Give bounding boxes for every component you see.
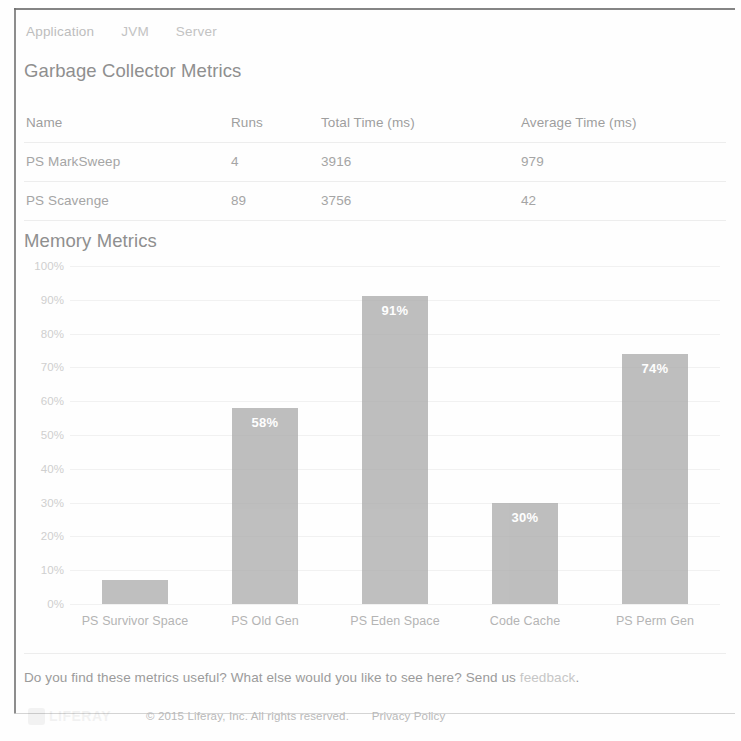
- chart-plot-area: 58%91%30%74%: [70, 266, 720, 604]
- bar-value-label: 91%: [362, 303, 428, 318]
- bar-slot: 74%: [593, 266, 717, 604]
- y-axis-tick-label: 30%: [24, 497, 64, 509]
- table-row: PS Scavenge 89 3756 42: [24, 182, 726, 221]
- table-row: PS MarkSweep 4 3916 979: [24, 143, 726, 182]
- y-axis-tick-label: 10%: [24, 564, 64, 576]
- y-axis-tick-label: 90%: [24, 294, 64, 306]
- x-axis-tick-label: PS Perm Gen: [590, 614, 720, 628]
- privacy-policy-link[interactable]: Privacy Policy: [372, 710, 446, 722]
- chart-bar[interactable]: 91%: [362, 296, 428, 604]
- y-axis-tick-label: 50%: [24, 429, 64, 441]
- table-header-row: Name Runs Total Time (ms) Average Time (…: [24, 104, 726, 143]
- page-border-left: [14, 8, 16, 714]
- cell-name: PS Scavenge: [24, 182, 231, 221]
- chart-bar[interactable]: [102, 580, 168, 604]
- x-axis-tick-label: PS Eden Space: [330, 614, 460, 628]
- y-axis-tick-label: 40%: [24, 463, 64, 475]
- bar-slot: 58%: [203, 266, 327, 604]
- cell-name: PS MarkSweep: [24, 143, 231, 182]
- tab-jvm[interactable]: JVM: [121, 24, 149, 39]
- copyright-text: © 2015 Liferay, Inc. All rights reserved…: [146, 710, 349, 722]
- y-axis-tick-label: 20%: [24, 530, 64, 542]
- y-axis-tick-label: 100%: [24, 260, 64, 272]
- bar-slot: [73, 266, 197, 604]
- cell-average-time: 42: [521, 182, 726, 221]
- chart-bar[interactable]: 30%: [492, 503, 558, 604]
- x-axis-tick-label: PS Old Gen: [200, 614, 330, 628]
- bar-value-label: 58%: [232, 415, 298, 430]
- chart-bars: 58%91%30%74%: [70, 266, 720, 604]
- column-header-runs: Runs: [231, 104, 321, 143]
- tab-application[interactable]: Application: [26, 24, 94, 39]
- bar-value-label: 30%: [492, 510, 558, 525]
- logo-mark: [28, 708, 45, 725]
- x-axis-tick-label: Code Cache: [460, 614, 590, 628]
- nav-tabs: Application JVM Server: [26, 24, 217, 39]
- chart-bar[interactable]: 58%: [232, 408, 298, 604]
- x-axis-tick-label: PS Survivor Space: [70, 614, 200, 628]
- y-axis-tick-label: 0%: [24, 598, 64, 610]
- memory-metrics-title: Memory Metrics: [24, 230, 157, 252]
- bar-value-label: 74%: [622, 361, 688, 376]
- bar-slot: 30%: [463, 266, 587, 604]
- cell-average-time: 979: [521, 143, 726, 182]
- tab-server[interactable]: Server: [176, 24, 217, 39]
- feedback-text: Do you find these metrics useful? What e…: [24, 670, 520, 685]
- column-header-total-time: Total Time (ms): [321, 104, 521, 143]
- y-axis-tick-label: 60%: [24, 395, 64, 407]
- cell-runs: 4: [231, 143, 321, 182]
- feedback-prompt: Do you find these metrics useful? What e…: [24, 653, 726, 685]
- page-content: Application JVM Server Garbage Collector…: [22, 8, 730, 714]
- liferay-logo-icon: LIFERAY: [28, 706, 120, 726]
- app-window: Application JVM Server Garbage Collector…: [0, 0, 741, 741]
- garbage-collector-metrics-title: Garbage Collector Metrics: [24, 60, 241, 82]
- y-axis-tick-label: 80%: [24, 328, 64, 340]
- column-header-average-time: Average Time (ms): [521, 104, 726, 143]
- cell-total-time: 3756: [321, 182, 521, 221]
- memory-metrics-chart: 100%90%80%70%60%50%40%30%20%10%0% 58%91%…: [24, 254, 726, 639]
- y-axis-tick-label: 70%: [24, 361, 64, 373]
- page-footer: LIFERAY © 2015 Liferay, Inc. All rights …: [22, 696, 730, 736]
- cell-runs: 89: [231, 182, 321, 221]
- feedback-link[interactable]: feedback: [520, 670, 576, 685]
- footer-legal: © 2015 Liferay, Inc. All rights reserved…: [146, 710, 445, 722]
- logo-wordmark: LIFERAY: [49, 708, 111, 724]
- gridline: [70, 604, 720, 605]
- chart-bar[interactable]: 74%: [622, 354, 688, 604]
- feedback-period: .: [575, 670, 579, 685]
- column-header-name: Name: [24, 104, 231, 143]
- bar-slot: 91%: [333, 266, 457, 604]
- cell-total-time: 3916: [321, 143, 521, 182]
- garbage-collector-metrics-table: Name Runs Total Time (ms) Average Time (…: [24, 104, 726, 221]
